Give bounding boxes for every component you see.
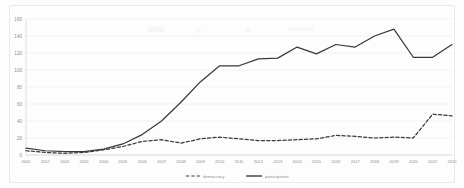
x-tick-label: 2011 xyxy=(235,159,245,164)
x-tick-label: 2017 xyxy=(351,159,361,164)
x-tick-label: 2022 xyxy=(447,159,457,164)
y-axis-labels: 020406080100120140160 xyxy=(14,17,22,158)
x-tick-label: 2016 xyxy=(331,159,341,164)
x-tick-label: 2003 xyxy=(80,159,90,164)
series-democracy-line xyxy=(26,114,452,153)
line-chart: 020406080100120140160 200020012002200320… xyxy=(0,0,464,188)
y-tick-label: 140 xyxy=(14,34,22,39)
x-tick-label: 2019 xyxy=(389,159,399,164)
series-participation-line xyxy=(26,29,452,151)
x-tick-label: 2006 xyxy=(138,159,148,164)
x-tick-label: 2010 xyxy=(215,159,225,164)
y-tick-label: 60 xyxy=(17,102,23,107)
x-tick-label: 2014 xyxy=(293,159,303,164)
x-axis-labels: 2000200120022003200420052006200720082009… xyxy=(21,159,457,164)
y-tick-label: 0 xyxy=(19,153,22,158)
x-tick-label: 2000 xyxy=(21,159,31,164)
x-tick-label: 2002 xyxy=(60,159,70,164)
legend-label-participation: participation xyxy=(265,174,289,179)
x-tick-label: 2005 xyxy=(118,159,128,164)
x-tick-label: 2013 xyxy=(273,159,283,164)
x-tick-label: 2007 xyxy=(157,159,167,164)
x-tick-label: 2018 xyxy=(370,159,380,164)
y-tick-label: 20 xyxy=(17,136,23,141)
x-tick-label: 2021 xyxy=(428,159,438,164)
y-tick-label: 40 xyxy=(17,119,23,124)
chart-legend: democracy participation xyxy=(186,174,289,179)
x-tick-label: 2009 xyxy=(196,159,206,164)
y-tick-label: 120 xyxy=(14,51,22,56)
x-tick-label: 2004 xyxy=(99,159,109,164)
x-tick-label: 2015 xyxy=(312,159,322,164)
x-tick-label: 2020 xyxy=(409,159,419,164)
y-tick-label: 100 xyxy=(14,68,22,73)
x-tick-label: 2012 xyxy=(254,159,264,164)
y-tick-label: 160 xyxy=(14,17,22,22)
x-tick-label: 2008 xyxy=(176,159,186,164)
y-tick-label: 80 xyxy=(17,85,23,90)
x-tick-label: 2001 xyxy=(41,159,51,164)
legend-label-democracy: democracy xyxy=(203,174,225,179)
chart-container: 020406080100120140160 200020012002200320… xyxy=(0,0,464,188)
y-gridlines xyxy=(26,19,452,155)
